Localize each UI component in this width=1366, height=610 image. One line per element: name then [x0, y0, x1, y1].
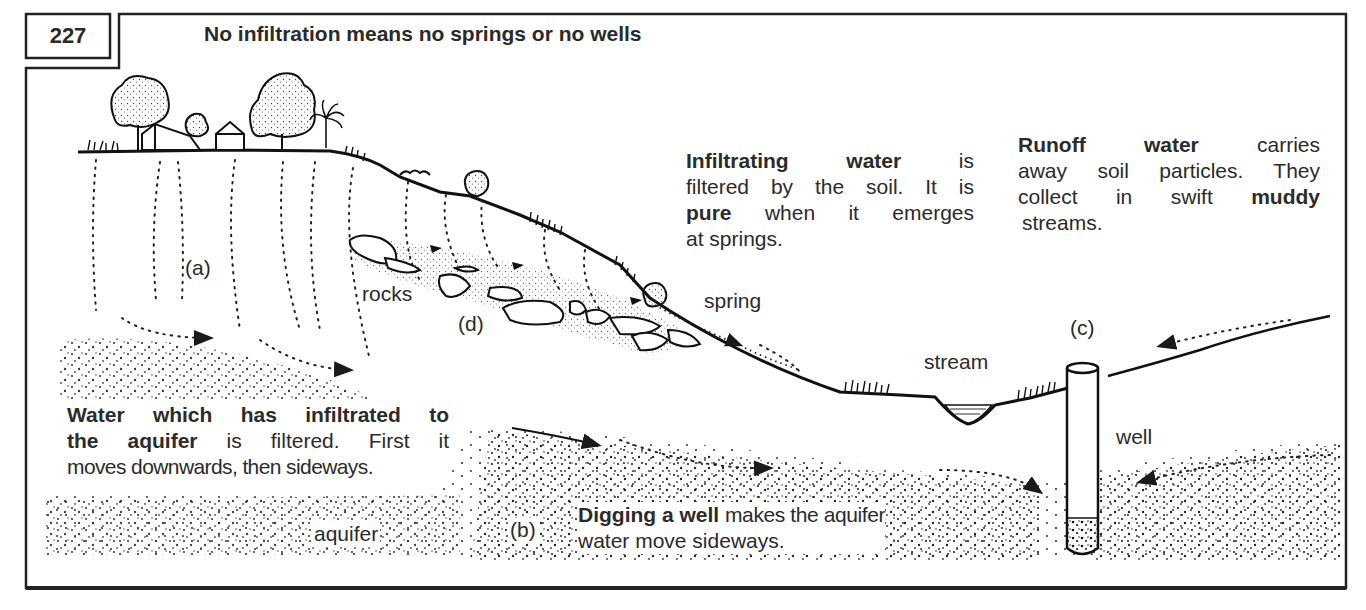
bush-spring [643, 283, 666, 306]
annotation-runoff-water: Runoff water carries away soil particles… [1018, 132, 1320, 236]
infiltration-paths [93, 160, 600, 360]
bush-slope [465, 171, 488, 196]
tree-right [250, 73, 315, 137]
figure-title: No infiltration means no springs or no w… [204, 22, 642, 46]
label-rocks: rocks [362, 282, 412, 306]
label-c: (c) [1070, 316, 1095, 340]
annotation-digging-well: Digging a well makes the aquifer water m… [578, 502, 885, 554]
label-spring: spring [704, 289, 761, 313]
aquifer-layer-left [60, 338, 380, 400]
well-illustration [1067, 363, 1098, 554]
figure-number: 227 [26, 14, 110, 58]
label-stream: stream [924, 350, 988, 374]
label-well: well [1116, 425, 1152, 449]
bush-small [186, 114, 208, 137]
label-d: (d) [458, 312, 484, 336]
annotation-infiltrating-water: Infiltrating water is filtered by the so… [686, 148, 974, 252]
label-aquifer: aquifer [312, 522, 380, 546]
label-b: (b) [508, 518, 538, 542]
annotation-aquifer-filtered: Water which has infiltrated to the aquif… [67, 402, 449, 480]
label-a: (a) [185, 256, 211, 280]
tree-left [111, 76, 169, 127]
